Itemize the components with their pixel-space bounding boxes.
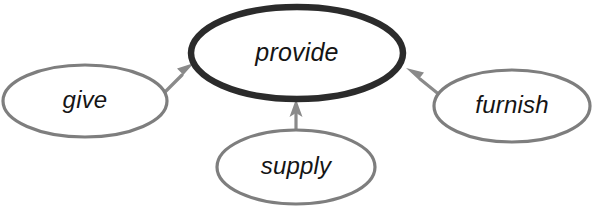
node-supply[interactable]: supply: [217, 130, 375, 204]
node-give[interactable]: give: [3, 65, 167, 137]
arrowhead-furnish: [406, 68, 425, 86]
synonym-diagram-canvas: give supply furnish provide: [0, 0, 604, 212]
node-furnish[interactable]: furnish: [434, 70, 590, 142]
node-furnish-label: furnish: [475, 91, 548, 118]
node-provide-label: provide: [254, 38, 338, 66]
edge-supply-to-provide: [290, 99, 303, 132]
edge-furnish-to-provide: [406, 68, 441, 96]
synonym-diagram: give supply furnish provide: [0, 0, 604, 212]
node-supply-label: supply: [261, 152, 333, 179]
node-give-label: give: [63, 86, 108, 113]
node-provide[interactable]: provide: [191, 7, 403, 99]
